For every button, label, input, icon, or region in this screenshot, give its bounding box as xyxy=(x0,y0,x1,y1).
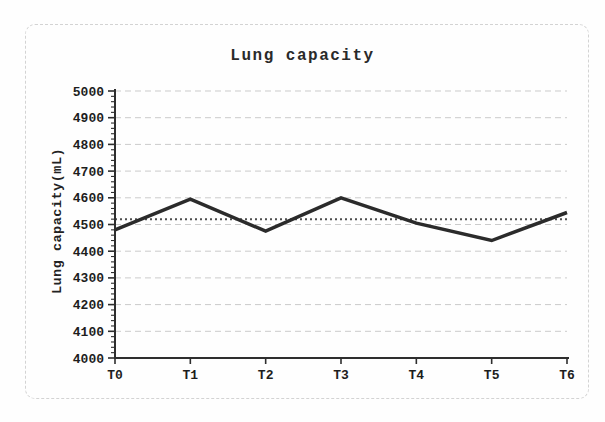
y-tick-label: 4800 xyxy=(73,138,104,153)
x-tick-label: T2 xyxy=(258,368,274,383)
x-tick-label: T3 xyxy=(333,368,349,383)
y-tick-label: 4900 xyxy=(73,111,104,126)
y-tick-label: 4200 xyxy=(73,298,104,313)
y-tick-label: 4700 xyxy=(73,165,104,180)
x-tick-label: T1 xyxy=(183,368,199,383)
y-tick-label: 5000 xyxy=(73,85,104,100)
x-tick-label: T6 xyxy=(559,368,575,383)
y-tick-label: 4500 xyxy=(73,218,104,233)
line-chart-canvas: 4000410042004300440045004600470048004900… xyxy=(0,0,605,422)
y-tick-label: 4400 xyxy=(73,245,104,260)
x-tick-label: T5 xyxy=(484,368,500,383)
x-tick-label: T0 xyxy=(107,368,123,383)
figure: Lung capacity Lung capacity(mL) 40004100… xyxy=(0,0,605,422)
y-tick-label: 4600 xyxy=(73,191,104,206)
y-tick-label: 4100 xyxy=(73,325,104,340)
y-tick-label: 4300 xyxy=(73,271,104,286)
y-tick-label: 4000 xyxy=(73,352,104,367)
x-tick-label: T4 xyxy=(409,368,425,383)
